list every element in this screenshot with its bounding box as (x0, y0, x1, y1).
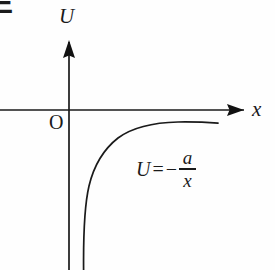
graph-canvas (0, 0, 275, 270)
x-axis-label: x (252, 99, 261, 120)
origin-label: O (49, 112, 63, 132)
curve-equation-annotation: U = − a x (136, 148, 196, 190)
equation-lhs: U (136, 159, 150, 179)
y-axis-label: U (59, 6, 74, 27)
fraction-numerator: a (180, 148, 196, 168)
equation-fraction: a x (179, 148, 196, 190)
equation-minus-sign: − (166, 159, 177, 179)
math-figure-hyperbola: E U x O U = − a x (0, 0, 275, 270)
x-axis-arrowhead (227, 104, 244, 116)
equation-equals-sign: = (152, 159, 163, 179)
y-axis-arrowhead (63, 40, 75, 58)
fraction-denominator: x (180, 170, 194, 190)
hyperbola-curve (84, 122, 218, 270)
